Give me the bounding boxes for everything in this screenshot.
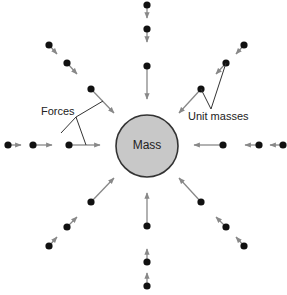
unit-mass-dot xyxy=(63,59,70,66)
force-arrow-icon xyxy=(179,178,201,202)
unit-mass-dot xyxy=(143,25,150,32)
unit-mass-dot xyxy=(240,41,247,48)
mass-label: Mass xyxy=(117,138,177,152)
unit-mass-dot xyxy=(143,62,150,69)
unit-mass-dot xyxy=(240,242,247,249)
gravity-field-diagram: Mass Forces Unit masses xyxy=(0,0,287,295)
unit-mass-dot xyxy=(143,282,150,289)
unit-masses-leader-lines xyxy=(201,63,226,109)
unit-mass-dot xyxy=(143,258,150,265)
unit-mass-dot xyxy=(143,222,150,229)
unit-mass-dot xyxy=(29,141,36,148)
unit-mass-dot xyxy=(143,1,150,8)
unit-mass-dot xyxy=(219,141,226,148)
unit-mass-dot xyxy=(197,198,204,205)
unit-mass-dot xyxy=(255,141,262,148)
unit-mass-dot xyxy=(279,141,286,148)
unit-mass-dot xyxy=(87,198,94,205)
force-arrow-icon xyxy=(91,178,114,202)
unit-mass-dot xyxy=(4,141,11,148)
unit-mass-dot xyxy=(87,85,94,92)
unit-masses-label: Unit masses xyxy=(188,110,249,122)
unit-mass-dot xyxy=(45,242,52,249)
forces-label: Forces xyxy=(41,105,75,117)
unit-mass-dot xyxy=(63,223,70,230)
unit-mass-dot xyxy=(45,41,52,48)
unit-mass-dot xyxy=(222,223,229,230)
unit-mass-dot xyxy=(65,141,72,148)
